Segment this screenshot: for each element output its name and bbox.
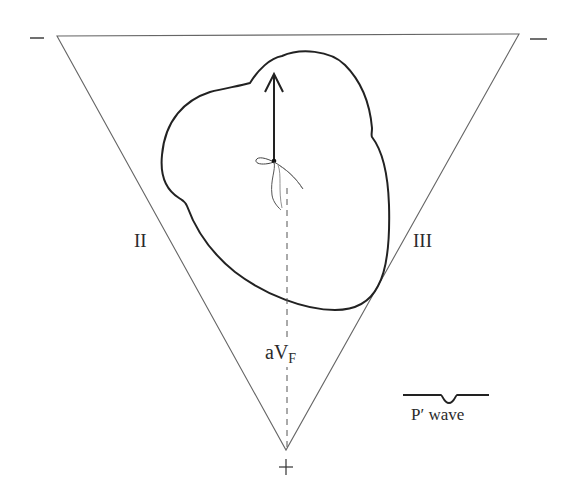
lead-avf-label: aVF xyxy=(265,341,296,367)
p-prime-wave-label: P′ wave xyxy=(411,406,464,423)
bundle-branch-inner xyxy=(278,165,302,208)
lead-iii-label: III xyxy=(413,231,432,250)
lead-ii-label: II xyxy=(134,231,147,250)
avf-base: aV xyxy=(265,341,288,363)
right-bundle-branch xyxy=(272,162,281,210)
p-prime-waveform xyxy=(403,395,489,403)
av-node-icon xyxy=(256,158,274,164)
avf-subscript: F xyxy=(288,351,296,366)
heart-outline xyxy=(162,51,390,310)
einthoven-triangle xyxy=(57,34,519,450)
einthoven-diagram xyxy=(0,0,572,488)
